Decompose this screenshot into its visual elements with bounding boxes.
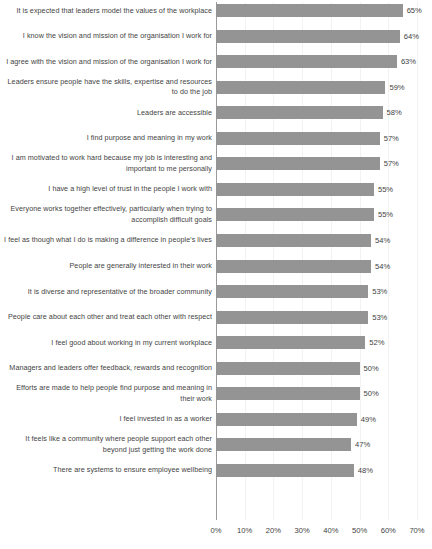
bar-value-label: 65% [407,4,422,17]
bar [216,387,360,400]
bar-value-label: 57% [384,157,399,170]
bar-category-label: I feel as though what I do is making a d… [2,235,212,245]
chart-row: I agree with the vision and mission of t… [0,55,432,68]
bar [216,4,403,17]
x-axis-tick-label: 70% [402,526,432,536]
x-axis-tick-label: 50% [345,526,375,536]
bar-value-label: 55% [378,183,393,196]
bar-category-label: It is expected that leaders model the va… [2,6,212,16]
bar-category-label: I feel invested in as a worker [2,414,212,424]
bar-value-label: 53% [372,311,387,324]
bar [216,464,354,477]
bar-value-label: 52% [369,336,384,349]
chart-row: I feel as though what I do is making a d… [0,234,432,247]
bar-category-label: Leaders ensure people have the skills, e… [2,77,212,98]
bar-value-label: 64% [404,30,419,43]
bar-category-label: I find purpose and meaning in my work [2,133,212,143]
bar [216,183,374,196]
bar-value-label: 48% [358,464,373,477]
bar-value-label: 54% [375,234,390,247]
bar-value-label: 47% [355,438,370,451]
x-axis-tick-label: 60% [373,526,403,536]
x-axis-tick-label: 10% [230,526,260,536]
bar-category-label: I have a high level of trust in the peop… [2,184,212,194]
bar-category-label: I am motivated to work hard because my j… [2,153,212,174]
bar [216,132,380,145]
bar-value-label: 63% [401,55,416,68]
bar [216,55,397,68]
chart-row: It is expected that leaders model the va… [0,4,432,17]
chart-plot-area: It is expected that leaders model the va… [0,0,432,520]
chart-row: Leaders ensure people have the skills, e… [0,81,432,94]
chart-row: I am motivated to work hard because my j… [0,157,432,170]
bar [216,81,385,94]
bar-category-label: I know the vision and mission of the org… [2,31,212,41]
bar [216,413,357,426]
bar-value-label: 59% [389,81,404,94]
bar [216,208,374,221]
bar [216,30,400,43]
chart-row: I feel good about working in my current … [0,336,432,349]
bar-value-label: 50% [364,362,379,375]
bar-value-label: 53% [372,285,387,298]
chart-row: Efforts are made to help people find pur… [0,387,432,400]
chart-row: I find purpose and meaning in my work57% [0,132,432,145]
chart-row: I feel invested in as a worker49% [0,413,432,426]
chart-row: I have a high level of trust in the peop… [0,183,432,196]
bar-category-label: I feel good about working in my current … [2,338,212,348]
chart-row: Managers and leaders offer feedback, rew… [0,362,432,375]
horizontal-bar-chart: It is expected that leaders model the va… [0,0,432,549]
chart-row: Leaders are accessible58% [0,106,432,119]
bar [216,311,368,324]
bar-category-label: Leaders are accessible [2,108,212,118]
bar [216,285,368,298]
bar-category-label: It is diverse and representative of the … [2,287,212,297]
bar-value-label: 50% [364,387,379,400]
chart-row: It feels like a community where people s… [0,438,432,451]
bar [216,336,365,349]
x-axis-tick-label: 30% [287,526,317,536]
bar-category-label: I agree with the vision and mission of t… [2,57,212,67]
bar-category-label: Everyone works together effectively, par… [2,204,212,225]
bar-value-label: 55% [378,208,393,221]
bar [216,157,380,170]
bar-value-label: 54% [375,260,390,273]
x-axis-tick-label: 0% [201,526,231,536]
chart-row: There are systems to ensure employee wel… [0,464,432,477]
bar-category-label: People care about each other and treat e… [2,312,212,322]
chart-row: People care about each other and treat e… [0,311,432,324]
bar [216,362,360,375]
chart-row: I know the vision and mission of the org… [0,30,432,43]
bar-value-label: 57% [384,132,399,145]
chart-row: Everyone works together effectively, par… [0,208,432,221]
bar-category-label: It feels like a community where people s… [2,434,212,455]
chart-row: People are generally interested in their… [0,260,432,273]
chart-row: It is diverse and representative of the … [0,285,432,298]
bar [216,438,351,451]
bar [216,106,383,119]
bar-category-label: Managers and leaders offer feedback, rew… [2,363,212,373]
bar-value-label: 49% [361,413,376,426]
bar-category-label: There are systems to ensure employee wel… [2,465,212,475]
x-axis-tick-label: 20% [258,526,288,536]
bar [216,234,371,247]
x-axis-tick-label: 40% [316,526,346,536]
bar-value-label: 58% [387,106,402,119]
bar [216,260,371,273]
bar-category-label: People are generally interested in their… [2,261,212,271]
x-axis: 0%10%20%30%40%50%60%70% [0,520,432,549]
bar-category-label: Efforts are made to help people find pur… [2,383,212,404]
